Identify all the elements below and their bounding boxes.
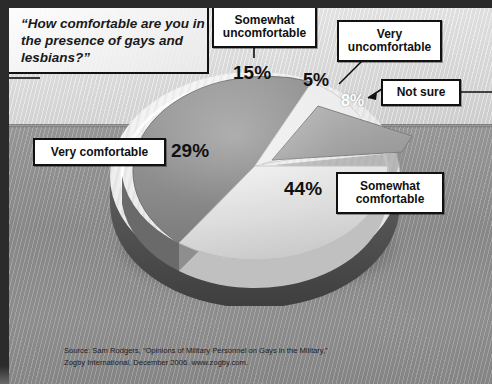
callout-very-uncomfortable[interactable]: Very uncomfortable: [337, 20, 442, 62]
chart-title: “How comfortable are you in the presence…: [21, 15, 207, 66]
callout-somewhat-comfortable-line-2: comfortable: [338, 193, 442, 206]
chart-title-line-3: presence of gays: [45, 33, 155, 48]
callout-very-uncomfortable-line-2: uncomfortable: [339, 41, 440, 54]
frame-left-bar: [0, 0, 9, 372]
value-somewhat-comfortable: 44%: [284, 178, 322, 200]
callout-very-comfortable-line-1: Very comfortable: [51, 146, 148, 159]
infographic-canvas: “How comfortable are you in the presence…: [0, 0, 492, 384]
value-very-uncomfortable: 5%: [303, 70, 329, 91]
callout-not-sure-line-1: Not sure: [397, 86, 446, 99]
source-note: Source: Sam Rodgers, “Opinions of Milita…: [64, 345, 464, 369]
chart-title-line-1: “How comfortable: [21, 16, 137, 31]
callout-somewhat-comfortable[interactable]: Somewhat comfortable: [336, 172, 444, 214]
callout-not-sure[interactable]: Not sure: [381, 79, 461, 106]
value-very-comfortable: 29%: [171, 140, 209, 162]
callout-somewhat-uncomfortable[interactable]: Somewhat uncomfortable: [212, 6, 317, 48]
frame-top-bar: [0, 0, 492, 8]
callout-somewhat-uncomfortable-line-2: uncomfortable: [214, 27, 315, 40]
source-line-2: Zogby International, December 2006. www.…: [64, 357, 464, 369]
value-not-sure: 8%: [341, 92, 364, 110]
leader-very-uncomfortable: [339, 61, 362, 84]
source-line-1: Source: Sam Rodgers, “Opinions of Milita…: [64, 345, 464, 357]
value-somewhat-uncomfortable: 15%: [233, 62, 271, 84]
chart-title-box: “How comfortable are you in the presence…: [9, 8, 209, 74]
frame-left-fade: [0, 366, 9, 384]
callout-very-comfortable[interactable]: Very comfortable: [33, 138, 166, 166]
